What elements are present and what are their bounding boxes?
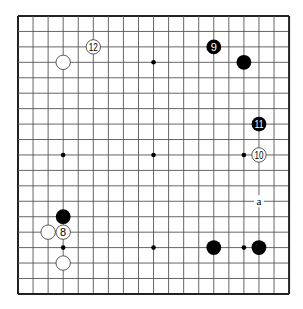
black-stone	[56, 209, 71, 224]
black-stone	[206, 240, 221, 255]
star-point	[151, 60, 156, 65]
star-point	[61, 153, 66, 158]
go-board[interactable]: 12911108 a	[0, 0, 303, 309]
move-number: 10	[254, 150, 263, 161]
white-stone: 10	[252, 148, 266, 162]
black-stone	[252, 240, 267, 255]
white-stone	[56, 55, 70, 69]
move-number: 11	[254, 119, 263, 130]
white-stone	[41, 225, 55, 239]
star-point	[242, 245, 247, 250]
star-point	[151, 153, 156, 158]
white-stone	[56, 256, 70, 270]
star-point	[151, 245, 156, 250]
star-point	[61, 245, 66, 250]
move-number: 9	[211, 41, 217, 53]
black-stone: 9	[206, 39, 221, 54]
white-stone: 12	[86, 40, 100, 54]
black-stone: 11	[252, 117, 267, 132]
star-point	[242, 153, 247, 158]
white-stone: 8	[56, 225, 70, 239]
black-stone	[237, 55, 252, 70]
point-label: a	[257, 195, 262, 207]
move-number: 8	[60, 226, 66, 238]
move-number: 12	[89, 42, 98, 53]
markers-layer: a	[254, 195, 264, 207]
